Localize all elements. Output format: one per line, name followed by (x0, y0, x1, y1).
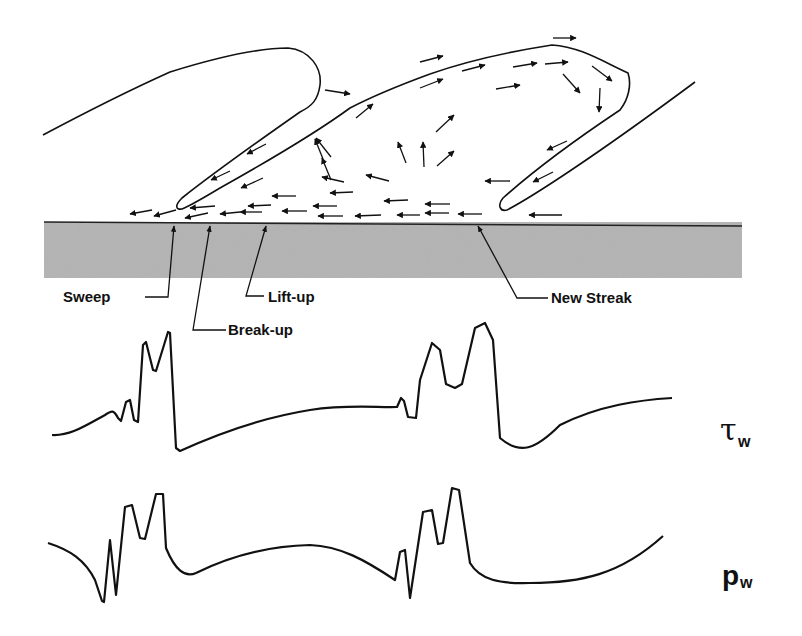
main-vortex-loop (430, 45, 695, 210)
break-up-label: Break-up (228, 321, 293, 338)
svg-text:τ: τ (720, 412, 737, 447)
pressure-label: p w (722, 560, 753, 591)
svg-text:w: w (737, 433, 751, 450)
new-streak-label: New Streak (551, 289, 633, 306)
wall (44, 222, 742, 278)
pressure-trace (48, 488, 663, 602)
bursting-diagram: Sweep Break-up Lift-up New Streak τ w p … (0, 0, 802, 636)
lift-up-label: Lift-up (268, 288, 315, 305)
older-vortex-loop (43, 48, 430, 209)
shear-stress-trace (52, 323, 672, 451)
svg-text:p: p (722, 560, 739, 591)
sweep-label: Sweep (63, 288, 111, 305)
svg-text:w: w (739, 574, 753, 591)
callout-labels: Sweep Break-up Lift-up New Streak (63, 288, 633, 338)
shear-stress-label: τ w (720, 412, 751, 450)
